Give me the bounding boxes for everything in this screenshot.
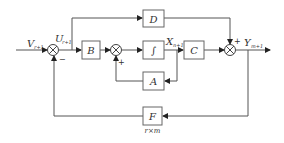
block-b-label: B bbox=[86, 45, 94, 56]
block-diagram: B D ∫ C A F V r+1 U r+1 X n+1 Y m+1 − + … bbox=[0, 0, 284, 143]
block-integrator-label: ∫ bbox=[151, 45, 156, 56]
sum-junction-1 bbox=[48, 45, 59, 56]
signal-input-label: V r+1 bbox=[27, 38, 44, 50]
y-to-f-wire bbox=[163, 50, 248, 116]
block-f-label: F bbox=[148, 111, 157, 122]
signal-u-label: U r+1 bbox=[55, 33, 72, 45]
signal-x-label: X n+1 bbox=[165, 36, 184, 48]
sum1-minus-sign: − bbox=[59, 55, 66, 64]
block-c-label: C bbox=[190, 45, 198, 56]
sum2-plus-sign: + bbox=[118, 58, 125, 67]
sum-junction-2 bbox=[111, 45, 122, 56]
svg-text:r+1: r+1 bbox=[34, 44, 44, 50]
d-to-sum3-wire bbox=[164, 18, 230, 44]
x-to-a-wire bbox=[165, 50, 177, 81]
block-a: A bbox=[143, 72, 164, 90]
f-dimension-note: r×m bbox=[145, 127, 161, 135]
block-d-label: D bbox=[148, 14, 157, 25]
sum3-plus-sign: + bbox=[234, 37, 241, 46]
block-integrator: ∫ bbox=[143, 41, 164, 59]
block-c: C bbox=[184, 41, 204, 59]
svg-text:r+1: r+1 bbox=[62, 39, 72, 45]
sum-junction-3 bbox=[225, 45, 236, 56]
signal-output-label: Y m+1 bbox=[244, 37, 263, 49]
svg-text:n+1: n+1 bbox=[173, 42, 184, 48]
block-b: B bbox=[82, 41, 100, 59]
svg-text:m+1: m+1 bbox=[251, 43, 263, 49]
block-f: F bbox=[143, 107, 162, 125]
block-d: D bbox=[143, 10, 164, 27]
f-to-sum1-wire bbox=[54, 56, 143, 116]
block-a-label: A bbox=[149, 76, 157, 87]
